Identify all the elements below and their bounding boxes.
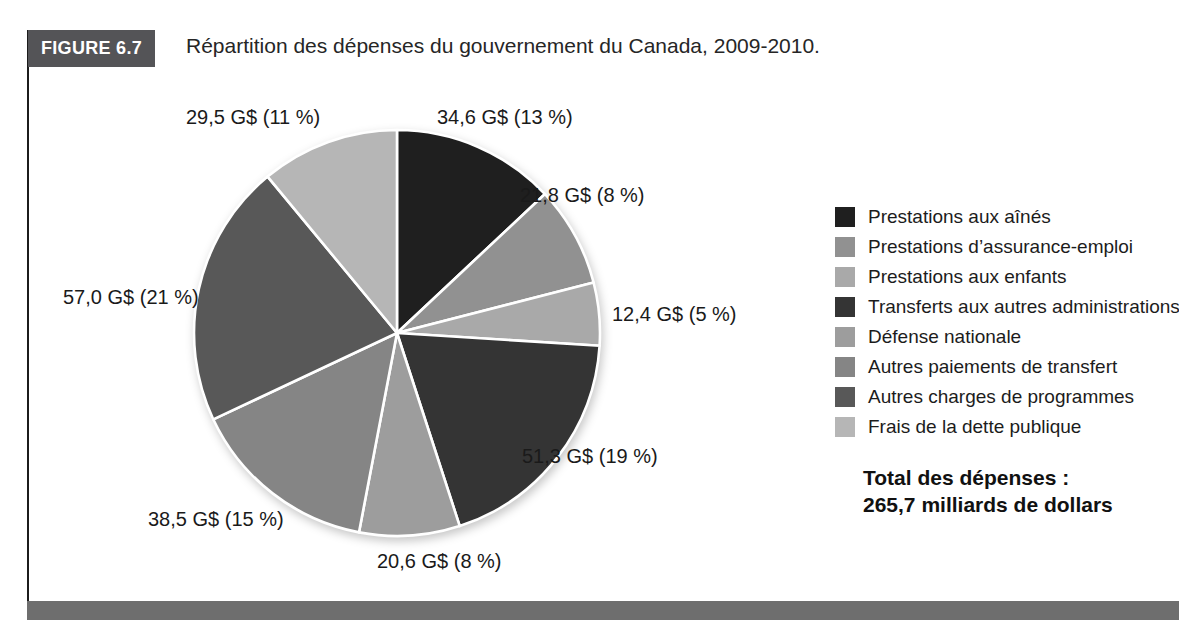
legend-color-swatch bbox=[835, 417, 855, 437]
figure-number-badge: FIGURE 6.7 bbox=[28, 30, 155, 67]
legend-label: Frais de la dette publique bbox=[868, 416, 1081, 438]
figure-left-rule bbox=[27, 30, 29, 603]
legend-color-swatch bbox=[835, 387, 855, 407]
legend-item: Prestations aux enfants bbox=[835, 262, 1179, 292]
pie-slice-label: 20,6 G$ (8 %) bbox=[377, 550, 502, 573]
legend-color-swatch bbox=[835, 357, 855, 377]
legend-label: Prestations aux enfants bbox=[868, 266, 1067, 288]
legend-label: Prestations aux aînés bbox=[868, 206, 1051, 228]
pie-slice-label: 21,8 G$ (8 %) bbox=[520, 184, 645, 207]
figure-number-label: FIGURE 6.7 bbox=[41, 38, 142, 59]
legend-color-swatch bbox=[835, 237, 855, 257]
legend-item: Prestations d’assurance-emploi bbox=[835, 232, 1179, 262]
legend-label: Prestations d’assurance-emploi bbox=[868, 236, 1133, 258]
legend-color-swatch bbox=[835, 267, 855, 287]
pie-slice-label: 51,3 G$ (19 %) bbox=[522, 445, 658, 468]
legend-label: Transferts aux autres administrations bbox=[868, 296, 1179, 318]
legend-item: Autres paiements de transfert bbox=[835, 352, 1179, 382]
legend-color-swatch bbox=[835, 297, 855, 317]
pie-slice-label: 12,4 G$ (5 %) bbox=[612, 303, 737, 326]
pie-slice-label: 34,6 G$ (13 %) bbox=[437, 106, 573, 129]
pie-slice-label: 57,0 G$ (21 %) bbox=[63, 286, 199, 309]
total-expenses-value: 265,7 milliards de dollars bbox=[863, 491, 1113, 518]
legend-item: Transferts aux autres administrations bbox=[835, 292, 1179, 322]
total-expenses-label: Total des dépenses : bbox=[863, 464, 1113, 491]
legend-item: Défense nationale bbox=[835, 322, 1179, 352]
legend-color-swatch bbox=[835, 207, 855, 227]
legend-item: Autres charges de programmes bbox=[835, 382, 1179, 412]
legend-label: Autres paiements de transfert bbox=[868, 356, 1117, 378]
pie-slice-label: 29,5 G$ (11 %) bbox=[186, 106, 320, 129]
figure-page: FIGURE 6.7 Répartition des dépenses du g… bbox=[0, 0, 1179, 631]
chart-legend: Prestations aux aînésPrestations d’assur… bbox=[835, 202, 1179, 442]
legend-item: Frais de la dette publique bbox=[835, 412, 1179, 442]
figure-title: Répartition des dépenses du gouvernement… bbox=[186, 34, 820, 58]
legend-label: Autres charges de programmes bbox=[868, 386, 1134, 408]
legend-color-swatch bbox=[835, 327, 855, 347]
total-expenses: Total des dépenses : 265,7 milliards de … bbox=[863, 464, 1113, 518]
pie-slice-label: 38,5 G$ (15 %) bbox=[148, 508, 284, 531]
legend-item: Prestations aux aînés bbox=[835, 202, 1179, 232]
legend-label: Défense nationale bbox=[868, 326, 1021, 348]
figure-bottom-bar bbox=[27, 601, 1179, 620]
